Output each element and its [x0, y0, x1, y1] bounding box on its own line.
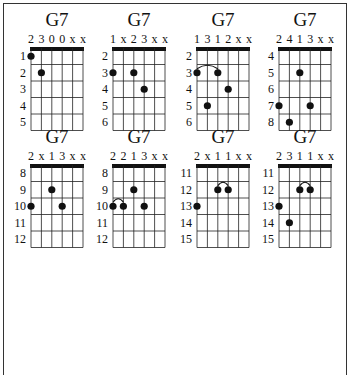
finger-label: x [328, 149, 334, 163]
fret-number: 6 [268, 82, 274, 96]
fret-number: 11 [96, 216, 108, 230]
fret-number: 6 [186, 115, 192, 129]
fret-number: 11 [262, 166, 274, 180]
finger-label: x [246, 32, 252, 46]
finger-label: 1 [215, 149, 221, 163]
finger-label: x [162, 149, 168, 163]
fret-number: 2 [102, 49, 108, 63]
fret-number: 8 [102, 166, 108, 180]
fret-number: 5 [268, 66, 274, 80]
fret-number: 10 [14, 199, 26, 213]
finger-dot [296, 69, 303, 76]
fret-number: 15 [180, 232, 192, 246]
finger-label: 2 [225, 32, 231, 46]
finger-label: 0 [59, 32, 65, 46]
finger-dot [307, 186, 314, 193]
fret-number: 8 [20, 166, 26, 180]
chord-name: G7 [45, 9, 68, 30]
fret-number: 7 [268, 99, 274, 113]
finger-dot [27, 53, 34, 60]
finger-label: x [236, 32, 242, 46]
finger-label: 1 [297, 149, 303, 163]
finger-label: 3 [141, 32, 147, 46]
nut [278, 47, 332, 51]
chord-diagram: G72311xx1112131415 [262, 126, 334, 248]
chord-diagram: G72x11xx1112131415 [180, 126, 252, 248]
finger-label: x [152, 32, 158, 46]
fret-number: 14 [180, 216, 192, 230]
fret-number: 3 [102, 66, 108, 80]
finger-dot [130, 69, 137, 76]
fret-number: 3 [186, 66, 192, 80]
finger-label: 2 [28, 32, 34, 46]
chord-diagram: G71312xx23456 [186, 9, 252, 131]
finger-label: 1 [297, 32, 303, 46]
finger-label: 2 [276, 149, 282, 163]
finger-label: 3 [141, 149, 147, 163]
finger-label: x [204, 149, 210, 163]
chord-diagram: G72x13xx89101112 [14, 126, 86, 248]
finger-dot [307, 102, 314, 109]
finger-dot [225, 86, 232, 93]
finger-dot [193, 203, 200, 210]
nut [30, 164, 84, 168]
finger-label: x [120, 32, 126, 46]
nut [30, 47, 84, 51]
chord-diagram: G72413xx45678 [268, 9, 334, 131]
finger-label: 1 [307, 149, 313, 163]
fret-number: 5 [20, 115, 26, 129]
finger-label: 2 [120, 149, 126, 163]
chord-name: G7 [127, 126, 150, 147]
chord-name: G7 [293, 9, 316, 30]
fret-number: 12 [14, 232, 26, 246]
finger-label: 2 [28, 149, 34, 163]
finger-dot [38, 69, 45, 76]
finger-label: x [318, 32, 324, 46]
chord-diagram: G72300xx12345 [20, 9, 86, 131]
finger-label: 4 [286, 32, 292, 46]
nut [196, 47, 250, 51]
finger-label: x [152, 149, 158, 163]
finger-label: x [70, 149, 76, 163]
finger-dot [275, 203, 282, 210]
finger-dot [120, 203, 127, 210]
nut [112, 164, 166, 168]
finger-label: 1 [215, 32, 221, 46]
nut [278, 164, 332, 168]
finger-dot [225, 186, 232, 193]
barre-arc [300, 182, 310, 186]
finger-label: x [162, 32, 168, 46]
finger-dot [130, 186, 137, 193]
finger-dot [109, 203, 116, 210]
finger-label: x [80, 32, 86, 46]
nut [196, 164, 250, 168]
fret-number: 4 [20, 99, 26, 113]
finger-dot [204, 102, 211, 109]
finger-label: x [236, 149, 242, 163]
barre-arc [113, 199, 123, 203]
finger-dot [286, 119, 293, 126]
finger-dot [48, 186, 55, 193]
fret-number: 12 [180, 183, 192, 197]
finger-dot [109, 69, 116, 76]
finger-dot [214, 69, 221, 76]
chord-diagram: G71x23xx23456 [102, 9, 168, 131]
chord-name: G7 [293, 126, 316, 147]
finger-dot [296, 186, 303, 193]
fret-number: 14 [262, 216, 274, 230]
fret-number: 1 [20, 49, 26, 63]
finger-label: 3 [38, 32, 44, 46]
fret-number: 4 [186, 82, 192, 96]
finger-label: x [80, 149, 86, 163]
finger-label: 1 [49, 149, 55, 163]
finger-label: 3 [286, 149, 292, 163]
finger-label: 1 [110, 32, 116, 46]
chord-diagram: G72213xx89101112 [96, 126, 168, 248]
finger-dot [141, 203, 148, 210]
chord-name: G7 [211, 126, 234, 147]
finger-label: 3 [59, 149, 65, 163]
chord-name: G7 [127, 9, 150, 30]
fret-number: 9 [102, 183, 108, 197]
finger-label: 1 [131, 149, 137, 163]
